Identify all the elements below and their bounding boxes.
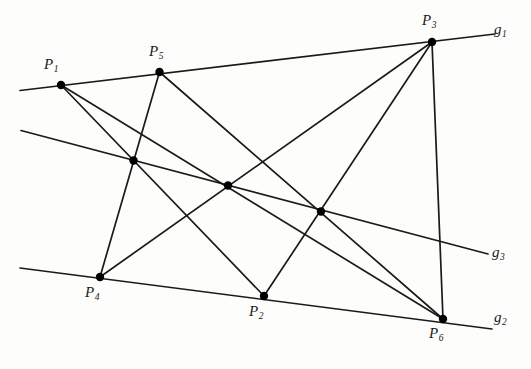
point-label-p6: P6 [429, 326, 443, 341]
base-line-g3 [21, 131, 488, 255]
connector-p3-p6 [432, 42, 443, 319]
connector-p3-p4 [100, 42, 432, 277]
point-label-p5: P5 [149, 44, 163, 59]
base-line-g1 [20, 34, 495, 91]
geometry-figure: P1P5P3P4P2P6g1g3g2 [0, 0, 531, 369]
connector-lines-group [61, 42, 443, 319]
intersection-point-i3 [317, 207, 325, 215]
diagram-canvas [0, 0, 531, 369]
point-label-p2: P2 [249, 304, 263, 319]
intersection-point-i2 [224, 181, 232, 189]
point-p1 [57, 81, 65, 89]
line-label-g3: g3 [492, 245, 504, 260]
point-label-p1: P1 [44, 57, 58, 72]
line-label-g2: g2 [494, 310, 506, 325]
line-label-g1: g1 [494, 22, 506, 37]
connector-p5-p4 [100, 72, 160, 277]
point-p6 [439, 315, 447, 323]
point-label-p3: P3 [422, 13, 436, 28]
point-p2 [260, 292, 268, 300]
point-p4 [96, 273, 104, 281]
connector-p3-p2 [264, 42, 432, 296]
point-p3 [428, 38, 436, 46]
point-label-p4: P4 [85, 285, 99, 300]
connector-p5-p6 [160, 72, 444, 319]
intersection-point-i1 [129, 156, 137, 164]
point-p5 [155, 68, 163, 76]
